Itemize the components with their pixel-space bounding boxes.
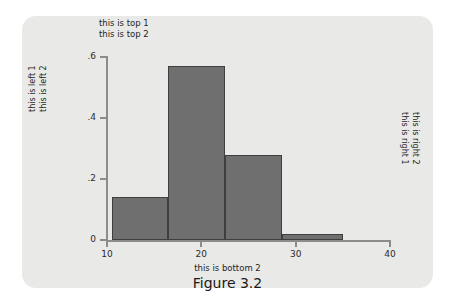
histogram-bar [225,155,282,240]
x-axis-label: this is bottom 2 [0,263,455,273]
y-axis-tick [100,56,106,58]
x-axis-tick [389,242,391,247]
y-axis-tick-label: .2 [74,173,96,183]
histogram-bar [112,197,169,240]
y-axis-tick-label: .6 [74,51,96,61]
figure-caption: Figure 3.2 [0,275,455,291]
x-axis-tick [200,242,202,247]
y-axis-tick-label: 0 [74,234,96,244]
y-axis-line [106,56,108,241]
x-axis-tick-label: 20 [189,249,213,259]
histogram-bar [282,234,343,240]
histogram-bar [168,66,225,240]
y-axis-tick [100,117,106,119]
x-axis-tick [106,242,108,247]
x-axis-tick [295,242,297,247]
figure-container: this is top 1 this is top 2 this is left… [0,0,455,303]
x-axis-tick-label: 40 [378,249,402,259]
x-axis-tick-label: 30 [284,249,308,259]
x-axis-line [106,240,391,242]
y-axis-tick [100,239,106,241]
y-axis-tick [100,178,106,180]
plot-area: 0.2.4.610203040 [0,0,455,303]
y-axis-tick-label: .4 [74,112,96,122]
x-axis-tick-label: 10 [95,249,119,259]
